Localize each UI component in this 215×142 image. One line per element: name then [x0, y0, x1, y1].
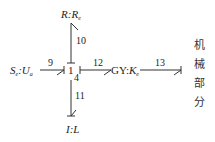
bond-10-number: 10: [76, 36, 86, 46]
mechanical-char-4: 分: [193, 95, 205, 110]
bond-10-half-arrow: [71, 23, 78, 30]
bond-11-half-arrow: [71, 110, 76, 116]
inertia-label: I:L: [66, 124, 79, 135]
bond-12-half-arrow: [104, 70, 111, 75]
junction-1: 1: [68, 65, 74, 76]
bond-9-number: 9: [48, 58, 53, 68]
source-label: Se:Ua: [10, 65, 33, 80]
bond-9-half-arrow: [57, 70, 64, 75]
mechanical-char-2: 械: [193, 57, 205, 72]
bond-12-number: 12: [93, 58, 103, 68]
bond-13-number: 13: [155, 58, 165, 68]
bond-13-half-arrow: [174, 70, 181, 75]
bond-11-number: 11: [75, 91, 85, 101]
resistor-label: R:Re: [61, 9, 81, 24]
mechanical-char-1: 机: [193, 38, 205, 53]
mechanical-char-3: 部: [193, 76, 205, 91]
junction-4-label: 4: [74, 73, 79, 83]
gyrator-label: GY:Ke: [111, 65, 139, 80]
